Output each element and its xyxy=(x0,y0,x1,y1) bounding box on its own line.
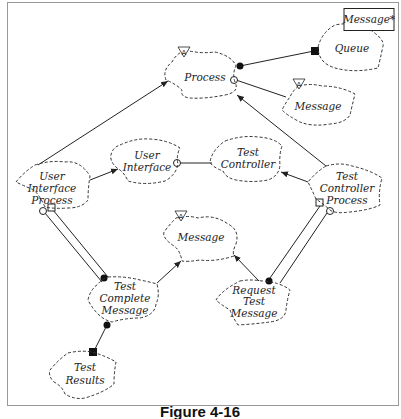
class-label: Message xyxy=(294,100,342,112)
open-square-icon xyxy=(316,199,323,206)
edge-process-queue xyxy=(237,47,320,70)
class-label: Message xyxy=(177,231,225,243)
edge-uip-ui xyxy=(90,169,118,180)
class-queue[interactable]: Message* Queue xyxy=(318,9,396,71)
svg-text:A: A xyxy=(297,81,302,89)
filled-circle-icon xyxy=(104,322,111,329)
parameter-label: Message* xyxy=(342,13,396,25)
class-process[interactable]: A Process xyxy=(165,47,236,98)
svg-text:Message: Message xyxy=(101,304,149,316)
class-label: Process xyxy=(183,71,226,83)
abstract-icon: A xyxy=(293,79,305,89)
class-user-interface-process[interactable]: User Interface Process xyxy=(16,161,90,208)
abstract-icon: A xyxy=(178,47,190,57)
svg-text:Process: Process xyxy=(30,194,73,206)
svg-text:Interface: Interface xyxy=(122,161,172,173)
svg-text:Controller: Controller xyxy=(221,158,277,170)
class-label: Queue xyxy=(335,42,370,55)
svg-text:Interface: Interface xyxy=(27,182,77,194)
class-user-interface[interactable]: User Interface xyxy=(111,139,180,184)
class-request-test-message[interactable]: Request Test Message xyxy=(216,280,290,325)
abstract-icon: A xyxy=(175,211,187,221)
svg-text:A: A xyxy=(179,213,184,221)
class-test-results[interactable]: Test Results xyxy=(50,351,117,398)
edge-tcp-tc xyxy=(281,172,308,182)
edge-uip-tcm xyxy=(40,204,109,282)
open-circle-icon xyxy=(327,208,334,215)
filled-circle-icon xyxy=(237,63,244,70)
open-circle-icon xyxy=(40,208,47,215)
class-message-top[interactable]: A Message xyxy=(282,79,355,125)
class-test-controller[interactable]: Test Controller xyxy=(210,137,282,182)
edge-rtm-message xyxy=(234,255,259,281)
figure-caption: Figure 4-16 xyxy=(160,403,240,419)
svg-text:Results: Results xyxy=(64,374,105,386)
svg-text:A: A xyxy=(182,49,187,57)
svg-text:User: User xyxy=(39,170,65,182)
svg-text:User: User xyxy=(134,149,160,161)
svg-text:Process: Process xyxy=(325,194,368,206)
filled-circle-icon xyxy=(101,275,108,282)
svg-text:Test: Test xyxy=(237,146,260,158)
svg-text:Test: Test xyxy=(243,295,266,307)
edge-ui-tc xyxy=(174,160,213,167)
class-test-complete-message[interactable]: Test Complete Message xyxy=(88,277,158,322)
svg-text:Message: Message xyxy=(230,307,278,319)
edge-tcm-message xyxy=(157,261,181,283)
edge-tcm-results xyxy=(89,322,111,357)
edge-tcp-rtm xyxy=(266,199,334,285)
svg-text:Test: Test xyxy=(114,280,137,292)
class-message-mid[interactable]: A Message xyxy=(164,211,237,261)
edge-process-message xyxy=(231,77,287,98)
svg-text:Test: Test xyxy=(336,170,359,182)
class-diagram: A Process Message* Queue A Message User … xyxy=(0,0,401,419)
svg-text:Controller: Controller xyxy=(320,182,376,194)
svg-text:Complete: Complete xyxy=(99,292,150,304)
svg-text:Test: Test xyxy=(74,361,97,373)
